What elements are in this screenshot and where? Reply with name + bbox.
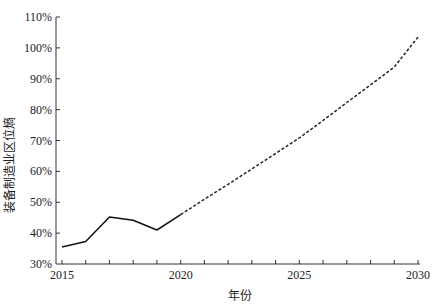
y-tick-label: 50% [30,195,52,209]
x-tick-label: 2015 [50,268,74,282]
series-line-projection [181,37,418,215]
y-axis-title: 装备制造业区位熵 [2,117,17,213]
y-tick-label: 70% [30,134,52,148]
y-tick-label: 40% [30,226,52,240]
y-tick-label: 90% [30,72,52,86]
y-tick-label: 60% [30,164,52,178]
x-tick-label: 2020 [169,268,193,282]
series-line-actual [62,215,181,247]
y-tick-label: 110% [24,10,52,24]
y-tick-label: 100% [24,41,52,55]
plot-area [62,37,418,247]
y-axis: 30%40%50%60%70%80%90%100%110% [24,10,60,271]
line-chart: 30%40%50%60%70%80%90%100%110% 2015202020… [0,0,432,308]
x-axis-title: 年份 [228,289,252,303]
x-tick-label: 2030 [406,268,430,282]
x-tick-label: 2025 [287,268,311,282]
y-tick-label: 30% [30,257,52,271]
y-tick-label: 80% [30,103,52,117]
x-axis: 2015202020252030 [50,260,430,282]
